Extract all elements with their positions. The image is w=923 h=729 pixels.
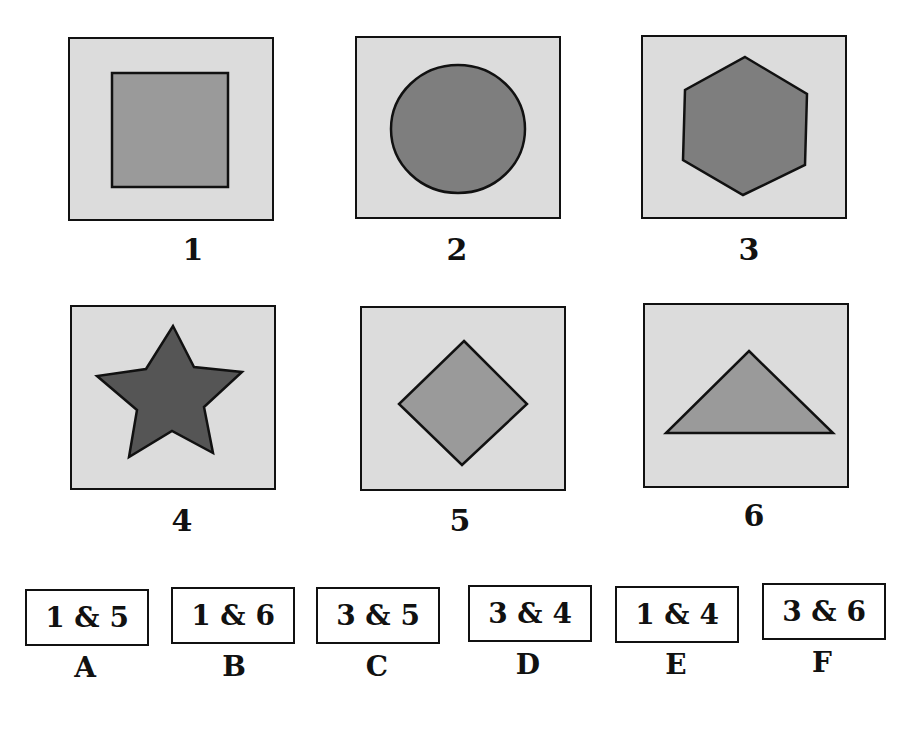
square-shape-icon: [70, 39, 272, 219]
figure-panel-4: [70, 305, 276, 490]
option-letter-e: E: [646, 648, 706, 681]
circle-shape-icon: [357, 38, 559, 217]
hexagon-shape-icon: [643, 37, 845, 217]
figure-panel-5: [360, 306, 566, 491]
option-box-b[interactable]: 1 & 6: [171, 587, 295, 644]
figure-label-6: 6: [724, 498, 784, 533]
option-letter-d: D: [498, 648, 558, 681]
figure-label-3: 3: [719, 232, 779, 267]
figure-label-2: 2: [427, 232, 487, 267]
star-shape-icon: [72, 307, 274, 488]
figure-label-4: 4: [152, 503, 212, 538]
option-letter-a: A: [55, 651, 115, 684]
figure-panel-3: [641, 35, 847, 219]
option-letter-c: C: [347, 650, 407, 683]
option-box-a[interactable]: 1 & 5: [25, 589, 149, 646]
figure-panel-2: [355, 36, 561, 219]
figure-panel-6: [643, 303, 849, 488]
option-box-c[interactable]: 3 & 5: [316, 587, 440, 644]
figure-label-5: 5: [430, 503, 490, 538]
triangle-shape-icon: [645, 305, 847, 486]
diamond-shape-icon: [362, 308, 564, 489]
option-box-d[interactable]: 3 & 4: [468, 585, 592, 642]
figure-panel-1: [68, 37, 274, 221]
option-letter-b: B: [204, 650, 264, 683]
option-box-e[interactable]: 1 & 4: [615, 586, 739, 643]
figure-label-1: 1: [163, 232, 223, 267]
option-box-f[interactable]: 3 & 6: [762, 583, 886, 640]
option-letter-f: F: [792, 646, 852, 679]
